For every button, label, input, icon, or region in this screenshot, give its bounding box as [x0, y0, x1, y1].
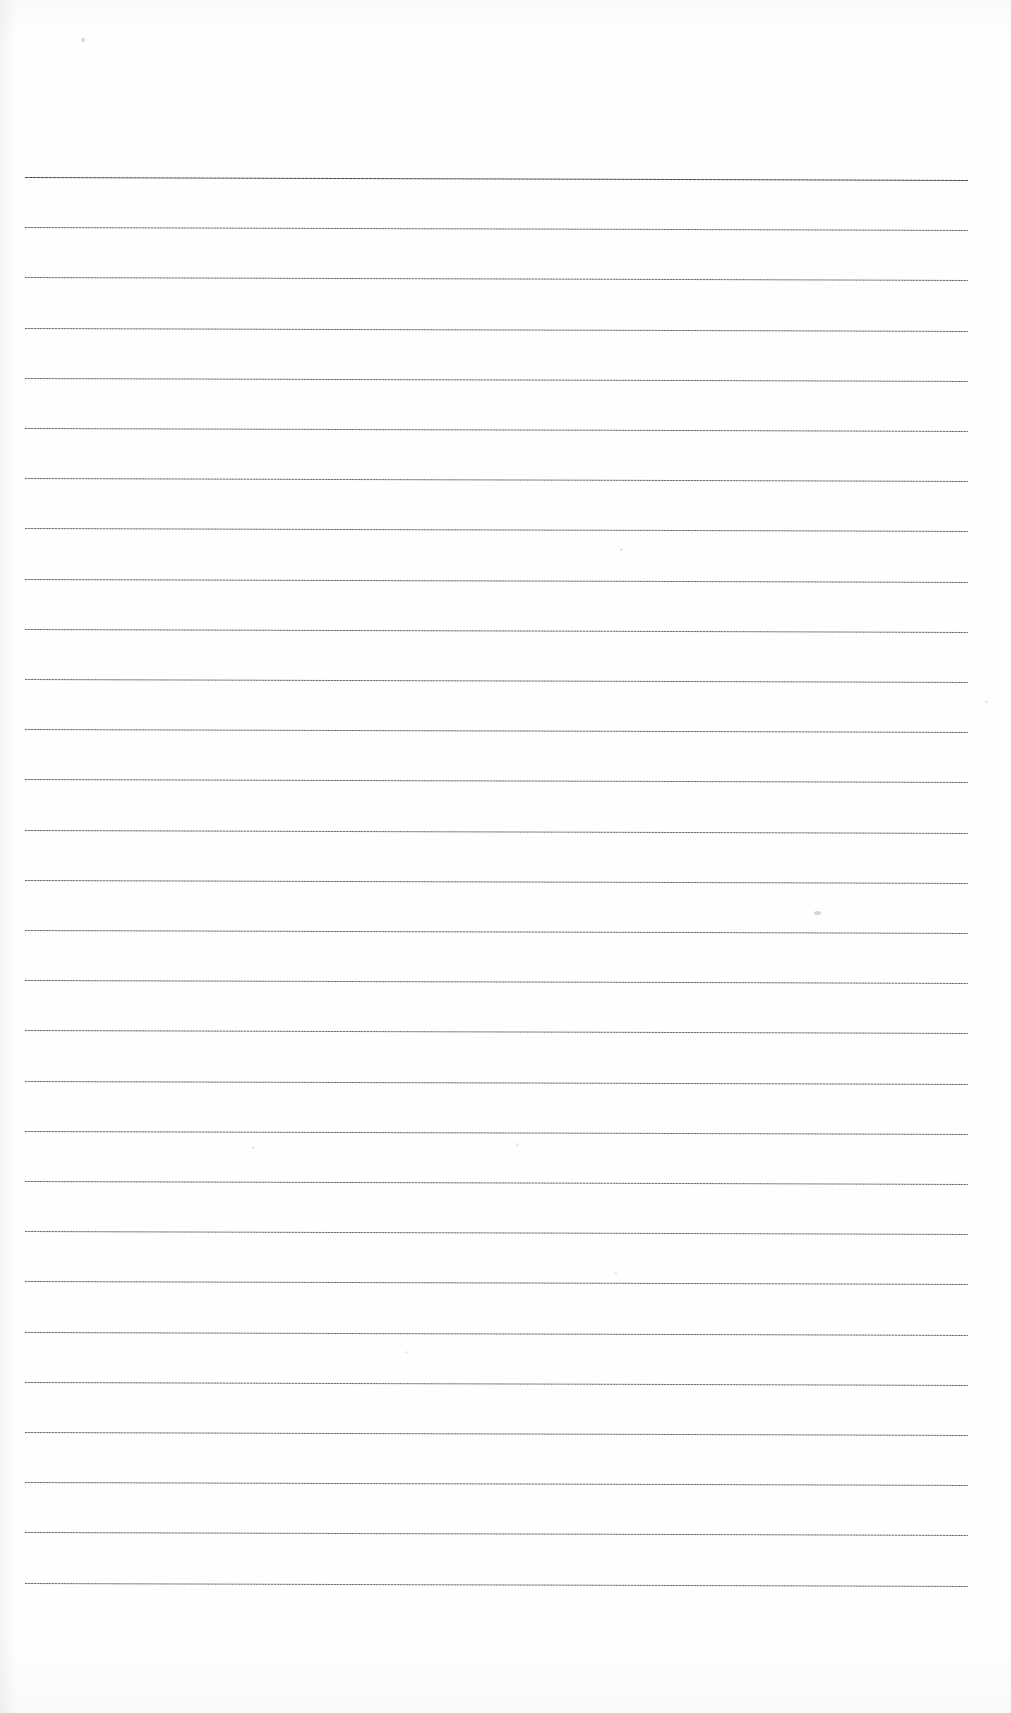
- rule-line: [25, 478, 968, 482]
- rule-line: [25, 1332, 968, 1336]
- rule-line: [25, 779, 968, 783]
- rule-line: [25, 1382, 968, 1386]
- rule-line: [25, 1532, 968, 1536]
- rule-line: [25, 1181, 968, 1185]
- header-rule-line: [25, 177, 968, 181]
- rule-line: [25, 930, 968, 934]
- rule-line: [25, 1081, 968, 1085]
- rule-line: [25, 528, 968, 532]
- rule-line: [25, 629, 968, 633]
- rule-line: [25, 1482, 968, 1486]
- rule-line: [25, 1231, 968, 1235]
- rule-line: [25, 729, 968, 733]
- ruled-line-group: [0, 0, 1011, 1713]
- rule-line: [25, 428, 968, 432]
- rule-line: [25, 980, 968, 984]
- rule-line: [25, 679, 968, 683]
- rule-line: [25, 1131, 968, 1135]
- rule-line: [25, 830, 968, 834]
- rule-line: [25, 1432, 968, 1436]
- rule-line: [25, 277, 968, 281]
- rule-line: [25, 880, 968, 884]
- rule-line: [25, 1030, 968, 1034]
- rule-line: [25, 378, 968, 382]
- rule-line: [25, 1281, 968, 1285]
- rule-line: [25, 227, 968, 231]
- rule-line: [25, 328, 968, 332]
- rule-line: [25, 1583, 968, 1587]
- scanned-page: [0, 0, 1011, 1713]
- rule-line: [25, 579, 968, 583]
